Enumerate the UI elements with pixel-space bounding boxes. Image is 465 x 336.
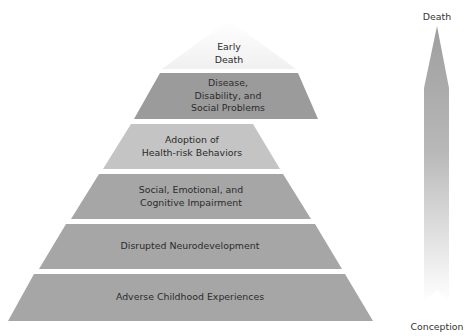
layer-label-line: Adverse Childhood Experiences (116, 291, 264, 304)
timeline-top-label: Death (423, 11, 451, 22)
timeline-bottom-label: Conception (410, 321, 463, 332)
layer-label-health-risk: Adoption of Health-risk Behaviors (142, 134, 242, 159)
layer-label-line: Adoption of (142, 134, 242, 147)
layer-label-line: Health-risk Behaviors (142, 147, 242, 160)
layer-label-line: Disrupted Neurodevelopment (121, 240, 260, 253)
layer-label-line: Cognitive Impairment (139, 197, 243, 210)
layer-label-line: Social Problems (191, 102, 265, 115)
timeline-arrow (424, 26, 449, 302)
apex-label-line: Death (215, 54, 243, 67)
apex-label: Early Death (215, 41, 243, 66)
layer-label-line: Disability, and (191, 90, 265, 103)
layer-label-ace: Adverse Childhood Experiences (116, 291, 264, 304)
layer-label-line: Disease, (191, 77, 265, 90)
layer-label-neurodevelopment: Disrupted Neurodevelopment (121, 240, 260, 253)
apex-label-line: Early (215, 41, 243, 54)
layer-label-disease: Disease, Disability, and Social Problems (191, 77, 265, 115)
layer-label-line: Social, Emotional, and (139, 184, 243, 197)
layer-label-impairment: Social, Emotional, and Cognitive Impairm… (139, 184, 243, 209)
